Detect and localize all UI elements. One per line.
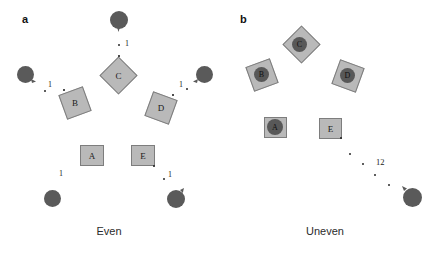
- panel-a-shape-c-vertex-dot: [118, 55, 120, 57]
- panel-a-marker-dot-left: [44, 90, 46, 92]
- panel-a-shape-b: B: [58, 86, 91, 119]
- panel-a-letter: a: [22, 14, 28, 25]
- panel-a-token-top: [110, 11, 128, 29]
- panel-b-shape-d-label: D: [345, 71, 351, 80]
- panel-a-count-bottom-left: 1: [59, 170, 63, 178]
- panel-a-token-left-nub: [31, 79, 36, 83]
- panel-a-token-right: [196, 66, 213, 83]
- panel-a-shape-e: E: [131, 145, 155, 166]
- panel-a-count-top: 1: [125, 40, 129, 48]
- panel-a-shape-e-label: E: [132, 146, 154, 165]
- panel-a-marker-dot-right: [186, 88, 188, 90]
- panel-b-letter: b: [240, 14, 247, 25]
- panel-a-count-bottom-right: 1: [168, 171, 172, 179]
- panel-b-shape-e: E: [319, 118, 342, 139]
- panel-b-trail-dot-3: [374, 174, 376, 176]
- panel-a-shape-b-corner-dot: [63, 89, 65, 91]
- panel-a-shape-c: C: [99, 56, 137, 94]
- panel-b-shape-d-token: D: [340, 68, 355, 83]
- panel-a-token-bottom-left: [44, 190, 61, 207]
- panel-a-shape-d: D: [144, 91, 177, 124]
- panel-b-shape-a-label: A: [272, 123, 278, 132]
- figure-canvas: a 1 1 1 1 1 C B: [0, 0, 436, 254]
- panel-b-shape-a-token: A: [267, 119, 283, 135]
- panel-a-shape-e-corner-dot: [153, 165, 155, 167]
- panel-a-shape-d-corner-dot: [172, 94, 174, 96]
- panel-a-token-top-nub: [117, 27, 120, 32]
- panel-a-shape-b-label: B: [62, 90, 88, 116]
- panel-b-token-bottom-right: [403, 188, 422, 207]
- panel-a: a 1 1 1 1 1 C B: [0, 0, 218, 254]
- panel-a-caption: Even: [49, 226, 169, 237]
- panel-b-count-bottom-right: 12: [376, 158, 385, 167]
- panel-b-shape-e-label: E: [320, 119, 341, 138]
- panel-a-shape-a-label: A: [81, 146, 103, 165]
- panel-b-trail-dot-1: [349, 153, 351, 155]
- panel-b-trail-dot-4: [388, 184, 390, 186]
- panel-a-shape-d-label: D: [148, 95, 174, 121]
- panel-a-count-right: 1: [179, 81, 183, 89]
- panel-b-shape-b-token: B: [254, 67, 269, 82]
- panel-a-token-right-nub: [193, 79, 198, 83]
- panel-a-token-bottom-right: [167, 190, 185, 208]
- panel-b-shape-c-label: C: [297, 40, 302, 49]
- panel-a-shape-c-label: C: [105, 62, 132, 89]
- panel-a-count-left: 1: [48, 81, 52, 89]
- panel-b-shape-c-token: C: [292, 37, 307, 52]
- panel-a-marker-dot-bottom-right: [163, 178, 165, 180]
- panel-a-marker-dot-top: [118, 44, 120, 46]
- panel-b-caption: Uneven: [265, 226, 385, 237]
- panel-b: b C B D A E: [218, 0, 436, 254]
- panel-b-trail-dot-2: [362, 163, 364, 165]
- panel-b-shape-b-label: B: [259, 70, 264, 79]
- panel-b-shape-e-corner-dot: [340, 137, 342, 139]
- panel-a-shape-a: A: [80, 145, 104, 166]
